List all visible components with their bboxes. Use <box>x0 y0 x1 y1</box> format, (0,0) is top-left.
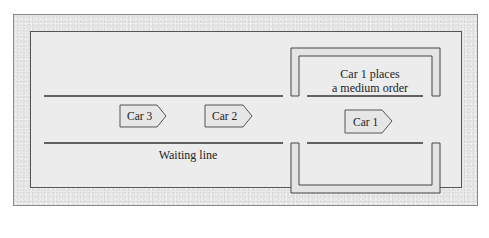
window-bottom-outer-wall <box>291 143 440 193</box>
window-caption-line-1: Car 1 places <box>300 67 440 81</box>
car-3-label: Car 3 <box>127 109 152 123</box>
car-1-label: Car 1 <box>353 115 378 129</box>
window-caption: Car 1 places a medium order <box>300 67 440 95</box>
waiting-line-label: Waiting line <box>148 148 228 162</box>
window-caption-line-2: a medium order <box>300 81 440 95</box>
car-2-label: Car 2 <box>212 109 237 123</box>
drive-through-drawing <box>0 0 489 238</box>
